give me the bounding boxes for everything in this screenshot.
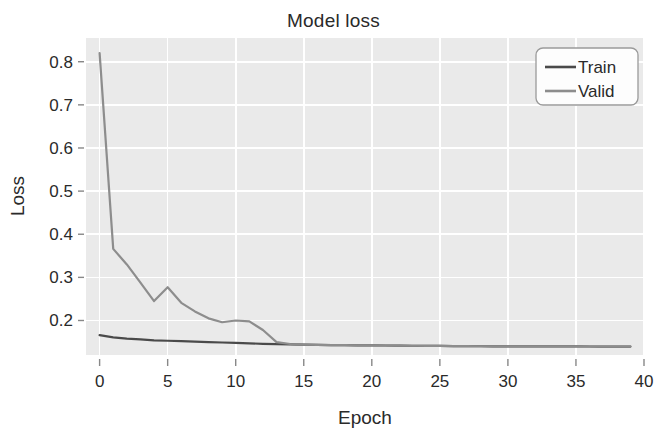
- chart-legend[interactable]: TrainValid: [536, 48, 638, 105]
- y-tick-label: 0.6: [49, 139, 73, 158]
- line-chart-plot: 0510152025303540 0.20.30.40.50.60.70.8 E…: [0, 0, 667, 433]
- figure-canvas: Model loss 0510152025303540 0.20.30.40.5…: [0, 0, 667, 433]
- y-tick-label: 0.3: [49, 268, 73, 287]
- x-tickmarks: [100, 359, 644, 366]
- y-tick-labels: 0.20.30.40.50.60.70.8: [49, 53, 73, 331]
- y-tick-label: 0.2: [49, 311, 73, 330]
- y-tick-label: 0.7: [49, 96, 73, 115]
- y-tick-label: 0.5: [49, 182, 73, 201]
- y-tick-label: 0.8: [49, 53, 73, 72]
- y-tickmarks: [78, 62, 84, 321]
- x-tick-label: 25: [430, 372, 449, 391]
- legend-label-valid: Valid: [578, 82, 615, 101]
- x-axis-label: Epoch: [338, 407, 392, 428]
- x-tick-label: 35: [566, 372, 585, 391]
- x-tick-label: 0: [95, 372, 104, 391]
- x-tick-labels: 0510152025303540: [95, 372, 654, 391]
- legend-label-train: Train: [578, 58, 616, 77]
- x-tick-label: 30: [498, 372, 517, 391]
- y-tick-label: 0.4: [49, 225, 73, 244]
- x-tick-label: 15: [294, 372, 313, 391]
- x-tick-label: 10: [226, 372, 245, 391]
- x-tick-label: 5: [163, 372, 172, 391]
- y-axis-label: Loss: [7, 176, 28, 216]
- x-tick-label: 20: [362, 372, 381, 391]
- x-tick-label: 40: [635, 372, 654, 391]
